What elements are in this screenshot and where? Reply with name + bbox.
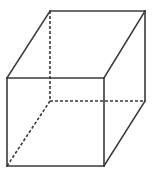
figure-background bbox=[0, 0, 152, 175]
cube-diagram bbox=[0, 0, 152, 175]
cube-figure bbox=[0, 0, 152, 175]
